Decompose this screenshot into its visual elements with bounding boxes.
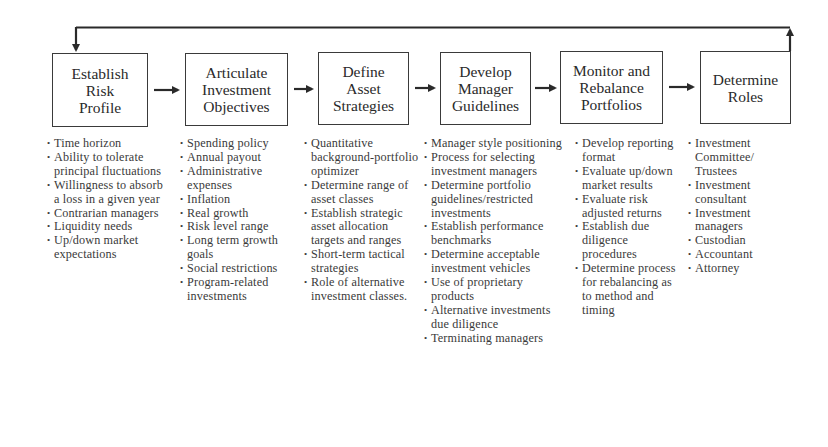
step-list-monitor-and-rebalance-portfolios: Develop reporting format Evaluate up/dow… bbox=[575, 137, 679, 318]
list-item: Use of proprietary products bbox=[424, 276, 569, 304]
list-item: Short-term tactical strategies bbox=[304, 248, 420, 276]
list-item: Quantitative background-portfolio optimi… bbox=[304, 137, 420, 179]
list-item: Determine acceptable investment vehicles bbox=[424, 248, 569, 276]
list-item: Manager style positioning bbox=[424, 137, 569, 151]
step-list-define-asset-strategies: Quantitative background-portfolio optimi… bbox=[304, 137, 420, 304]
list-item: Spending policy bbox=[180, 137, 292, 151]
list-item: Establish due diligence procedures bbox=[575, 220, 679, 262]
list-item: Time horizon bbox=[47, 137, 169, 151]
list-item: Establish strategic asset allocation tar… bbox=[304, 207, 420, 249]
step-box-monitor-and-rebalance-portfolios: Monitor and Rebalance Portfolios bbox=[560, 51, 663, 124]
list-item: Determine process for rebalancing as to … bbox=[575, 262, 679, 318]
list-item: Alternative investments due diligence bbox=[424, 304, 569, 332]
list-item: Real growth bbox=[180, 207, 292, 221]
list-item: Develop reporting format bbox=[575, 137, 679, 165]
list-item: Investment Committee/ Trustees bbox=[688, 137, 788, 179]
list-item: Social restrictions bbox=[180, 262, 292, 276]
investment-process-diagram: Establish Risk Profile Articulate Invest… bbox=[0, 0, 828, 447]
list-item: Custodian bbox=[688, 234, 788, 248]
list-item: Risk level range bbox=[180, 220, 292, 234]
list-item: Liquidity needs bbox=[47, 220, 169, 234]
list-item: Accountant bbox=[688, 248, 788, 262]
list-item: Establish performance benchmarks bbox=[424, 220, 569, 248]
list-item: Determine portfolio guidelines/restricte… bbox=[424, 179, 569, 221]
step-box-determine-roles: Determine Roles bbox=[700, 51, 791, 124]
step-box-define-asset-strategies: Define Asset Strategies bbox=[318, 52, 409, 125]
step-list-determine-roles: Investment Committee/ Trustees Investmen… bbox=[688, 137, 788, 276]
list-item: Program-related investments bbox=[180, 276, 292, 304]
list-item: Inflation bbox=[180, 193, 292, 207]
step-box-articulate-investment-objectives: Articulate Investment Objectives bbox=[185, 53, 288, 126]
list-item: Investment consultant bbox=[688, 179, 788, 207]
list-item: Annual payout bbox=[180, 151, 292, 165]
step-list-establish-risk-profile: Time horizon Ability to tolerate princip… bbox=[47, 137, 169, 262]
list-item: Terminating managers bbox=[424, 332, 569, 346]
step-box-establish-risk-profile: Establish Risk Profile bbox=[52, 53, 148, 127]
list-item: Long term growth goals bbox=[180, 234, 292, 262]
list-item: Evaluate risk adjusted returns bbox=[575, 193, 679, 221]
list-item: Evaluate up/down market results bbox=[575, 165, 679, 193]
feedback-loop-arrow bbox=[76, 27, 790, 51]
list-item: Ability to tolerate principal fluctuatio… bbox=[47, 151, 169, 179]
step-list-articulate-investment-objectives: Spending policy Annual payout Administra… bbox=[180, 137, 292, 304]
list-item: Administrative expenses bbox=[180, 165, 292, 193]
list-item: Attorney bbox=[688, 262, 788, 276]
list-item: Contrarian managers bbox=[47, 207, 169, 221]
list-item: Role of alternative investment classes. bbox=[304, 276, 420, 304]
step-list-develop-manager-guidelines: Manager style positioning Process for se… bbox=[424, 137, 569, 346]
list-item: Determine range of asset classes bbox=[304, 179, 420, 207]
step-box-develop-manager-guidelines: Develop Manager Guidelines bbox=[440, 52, 531, 125]
list-item: Up/down market expectations bbox=[47, 234, 169, 262]
list-item: Willingness to absorb a loss in a given … bbox=[47, 179, 169, 207]
list-item: Investment managers bbox=[688, 207, 788, 235]
list-item: Process for selecting investment manager… bbox=[424, 151, 569, 179]
